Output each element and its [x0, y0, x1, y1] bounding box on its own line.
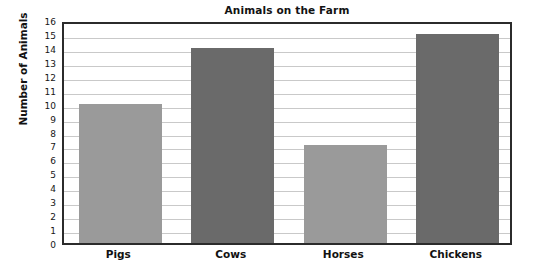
x-tick-label: Chickens	[400, 248, 513, 260]
bar	[304, 145, 387, 243]
y-tick-label: 10	[34, 101, 56, 110]
y-tick-label: 4	[34, 185, 56, 194]
plot-area	[62, 22, 512, 245]
y-tick-label: 3	[34, 199, 56, 208]
y-axis-title: Number of Animals	[17, 0, 29, 162]
y-tick-label: 5	[34, 171, 56, 180]
y-tick-label: 12	[34, 73, 56, 82]
y-tick-label: 13	[34, 59, 56, 68]
y-axis-tick-labels: 012345678910111213141516	[34, 22, 56, 245]
x-tick-label: Horses	[287, 248, 400, 260]
y-tick-label: 15	[34, 31, 56, 40]
x-tick-label: Pigs	[62, 248, 175, 260]
y-tick-label: 8	[34, 129, 56, 138]
y-tick-label: 0	[34, 241, 56, 250]
bars-layer	[64, 24, 510, 243]
bar	[191, 48, 274, 243]
bar	[79, 104, 162, 243]
chart-title: Animals on the Farm	[62, 4, 512, 16]
x-tick-label: Cows	[175, 248, 288, 260]
x-axis-tick-labels: PigsCowsHorsesChickens	[62, 248, 512, 268]
bar-chart: Animals on the Farm Number of Animals 01…	[0, 0, 536, 273]
y-tick-label: 6	[34, 157, 56, 166]
y-tick-label: 1	[34, 227, 56, 236]
y-tick-label: 7	[34, 143, 56, 152]
y-tick-label: 11	[34, 87, 56, 96]
y-tick-label: 2	[34, 213, 56, 222]
y-tick-label: 14	[34, 45, 56, 54]
y-tick-label: 9	[34, 115, 56, 124]
bar	[416, 34, 499, 243]
y-tick-label: 16	[34, 18, 56, 27]
